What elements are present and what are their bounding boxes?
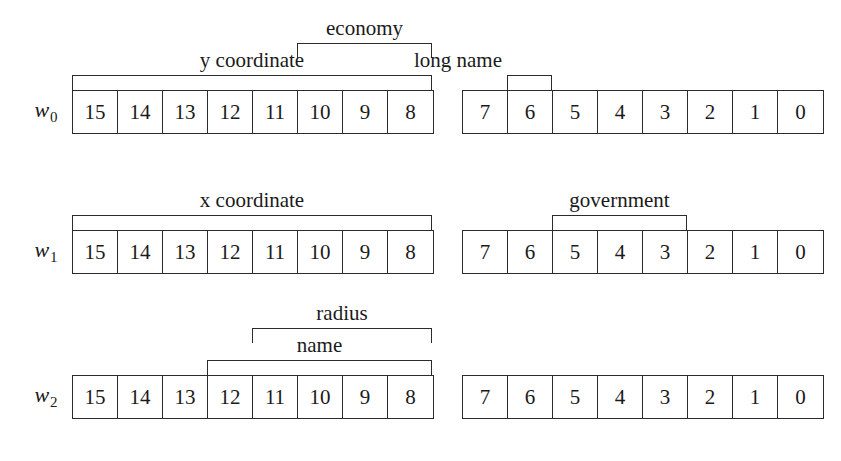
bit-cell: 14 — [118, 376, 163, 418]
bit-cell: 2 — [688, 91, 733, 133]
word-label-name: w — [34, 382, 49, 407]
bit-block-low: 76543210 — [462, 375, 824, 419]
bit-cell: 9 — [343, 231, 388, 273]
bit-cell: 8 — [388, 231, 433, 273]
bit-cell: 5 — [553, 231, 598, 273]
field-label: radius — [252, 303, 432, 324]
bit-cell: 7 — [463, 376, 508, 418]
bit-cell: 4 — [598, 231, 643, 273]
bit-block-low: 76543210 — [462, 90, 824, 134]
field-label: government — [552, 190, 687, 211]
field-label: x coordinate — [72, 190, 432, 211]
field-bracket — [72, 75, 432, 90]
bit-cell: 8 — [388, 91, 433, 133]
word-label-name: w — [34, 237, 49, 262]
bit-cell: 1 — [733, 91, 778, 133]
bit-cell: 15 — [73, 376, 118, 418]
field-bracket — [207, 360, 432, 375]
bit-cell: 3 — [643, 376, 688, 418]
bit-cell: 3 — [643, 91, 688, 133]
bit-cell: 6 — [508, 91, 553, 133]
bit-cell: 2 — [688, 231, 733, 273]
word-label-subscript: 2 — [50, 394, 58, 410]
bit-cell: 12 — [208, 231, 253, 273]
bit-cell: 1 — [733, 376, 778, 418]
bit-cell: 2 — [688, 376, 733, 418]
field-label: long name — [267, 50, 502, 71]
bit-cell: 7 — [463, 231, 508, 273]
bit-cell: 10 — [298, 376, 343, 418]
bit-cell: 13 — [163, 231, 208, 273]
field-bracket — [552, 215, 687, 230]
bit-cell: 5 — [553, 376, 598, 418]
bit-cell: 1 — [733, 231, 778, 273]
bit-cell: 11 — [253, 91, 298, 133]
bit-cell: 6 — [508, 231, 553, 273]
bit-cell: 4 — [598, 376, 643, 418]
bit-cell: 13 — [163, 376, 208, 418]
bit-cell: 7 — [463, 91, 508, 133]
bit-cell: 5 — [553, 91, 598, 133]
word-label-subscript: 0 — [50, 109, 58, 125]
bit-cell: 8 — [388, 376, 433, 418]
word-label-w1: w1 — [24, 239, 68, 265]
word-label-subscript: 1 — [50, 249, 58, 265]
bit-cell: 4 — [598, 91, 643, 133]
bit-cell: 12 — [208, 376, 253, 418]
bit-cell: 0 — [778, 91, 823, 133]
word-label-w0: w0 — [24, 99, 68, 125]
bit-cell: 15 — [73, 231, 118, 273]
bit-cell: 13 — [163, 91, 208, 133]
bit-cell: 12 — [208, 91, 253, 133]
bit-cell: 0 — [778, 376, 823, 418]
bit-block-high: 15141312111098 — [72, 90, 434, 134]
bit-cell: 11 — [253, 376, 298, 418]
bit-block-low: 76543210 — [462, 230, 824, 274]
field-label: economy — [297, 18, 432, 39]
bit-cell: 6 — [508, 376, 553, 418]
bit-cell: 10 — [298, 91, 343, 133]
field-bracket — [507, 75, 552, 90]
field-bracket — [72, 215, 432, 230]
bit-cell: 11 — [253, 231, 298, 273]
bit-cell: 9 — [343, 376, 388, 418]
bit-cell: 10 — [298, 231, 343, 273]
bit-cell: 0 — [778, 231, 823, 273]
bit-cell: 14 — [118, 91, 163, 133]
word-label-name: w — [34, 97, 49, 122]
word-label-w2: w2 — [24, 384, 68, 410]
field-bracket — [252, 328, 432, 343]
bit-cell: 3 — [643, 231, 688, 273]
bit-block-high: 15141312111098 — [72, 230, 434, 274]
bit-block-high: 15141312111098 — [72, 375, 434, 419]
bit-cell: 14 — [118, 231, 163, 273]
bit-cell: 9 — [343, 91, 388, 133]
bit-cell: 15 — [73, 91, 118, 133]
